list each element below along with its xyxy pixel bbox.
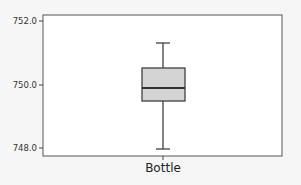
- y-axis: 752.0 750.0 748.0: [13, 16, 43, 153]
- y-tick-label: 752.0: [13, 16, 37, 26]
- x-category-label: Bottle: [145, 161, 181, 175]
- y-tick-label: 748.0: [13, 143, 37, 153]
- iqr-box: [142, 68, 185, 101]
- y-tick-label: 750.0: [13, 80, 37, 90]
- box-plot-chart: 752.0 750.0 748.0 Bottle: [0, 0, 301, 185]
